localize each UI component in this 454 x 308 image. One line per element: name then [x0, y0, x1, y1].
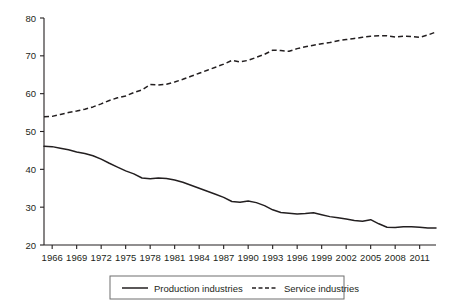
- x-tick-label: 1969: [66, 252, 87, 263]
- x-tick-label: 1999: [311, 252, 332, 263]
- y-axis-ticks: 20304050607080: [25, 13, 44, 251]
- x-tick-label: 1966: [42, 252, 63, 263]
- y-tick-label: 20: [25, 240, 36, 251]
- chart-container: 20304050607080 1966196919721975197819811…: [0, 0, 454, 308]
- y-tick-label: 30: [25, 202, 36, 213]
- x-tick-label: 1975: [115, 252, 136, 263]
- x-tick-label: 1978: [140, 252, 161, 263]
- series-line-production-industries: [44, 146, 436, 228]
- x-tick-label: 2008: [385, 252, 406, 263]
- x-tick-label: 1972: [91, 252, 112, 263]
- x-tick-label: 1987: [213, 252, 234, 263]
- x-tick-label: 2002: [336, 252, 357, 263]
- x-tick-label: 1981: [164, 252, 185, 263]
- x-tick-label: 1993: [262, 252, 283, 263]
- chart-legend: Production industries Service industries: [110, 276, 359, 299]
- y-tick-label: 40: [25, 164, 36, 175]
- line-chart: 20304050607080 1966196919721975197819811…: [0, 0, 454, 308]
- y-tick-label: 70: [25, 50, 36, 61]
- x-tick-label: 1990: [238, 252, 259, 263]
- x-tick-label: 1984: [189, 252, 210, 263]
- y-tick-label: 50: [25, 126, 36, 137]
- x-tick-label: 2011: [409, 252, 429, 263]
- legend-label-service-industries: Service industries: [284, 283, 359, 294]
- legend-label-production-industries: Production industries: [154, 283, 243, 294]
- x-tick-label: 1996: [287, 252, 308, 263]
- series-line-service-industries: [44, 32, 436, 117]
- x-tick-label: 2005: [360, 252, 381, 263]
- y-tick-label: 60: [25, 88, 36, 99]
- x-axis-ticks: 1966196919721975197819811984198719901993…: [42, 245, 430, 263]
- y-tick-label: 80: [25, 13, 36, 24]
